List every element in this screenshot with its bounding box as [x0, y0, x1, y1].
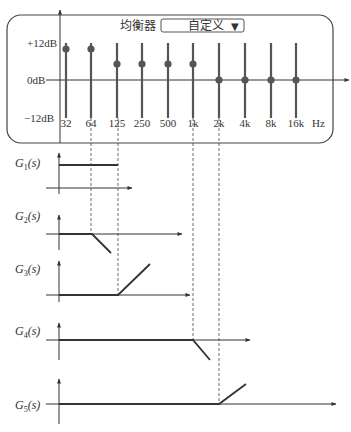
filter-label: G5(s) [15, 398, 40, 414]
band-label: 4k [240, 117, 252, 129]
filter-label: G4(s) [15, 324, 40, 340]
filter-label: G1(s) [15, 156, 40, 172]
preset-dropdown[interactable]: 自定义 ▼ [161, 18, 244, 33]
label-plus-12db: +12dB [27, 37, 57, 49]
equalizer-title: 均衡器 [120, 19, 156, 33]
slider-knob[interactable] [113, 60, 120, 67]
eq-band-slider[interactable]: 16k [288, 43, 305, 129]
filter-label: G3(s) [15, 262, 40, 278]
slider-knob[interactable] [189, 60, 196, 67]
filter-responses: G1(s)G2(s)G3(s)G4(s)G5(s) [15, 153, 336, 424]
eq-band-slider[interactable]: 4k [240, 43, 252, 129]
filter-g5: G5(s) [15, 379, 336, 424]
slider-knob[interactable] [164, 60, 171, 67]
eq-band-slider[interactable]: 125 [109, 43, 126, 129]
filter-g3: G3(s) [15, 261, 190, 302]
slider-knob[interactable] [87, 45, 94, 52]
eq-band-slider[interactable]: 250 [134, 43, 151, 129]
band-label: 32 [61, 117, 72, 129]
filter-label: G2(s) [15, 209, 40, 225]
filter-response-curve [59, 264, 150, 295]
label-0db: 0dB [27, 74, 45, 86]
dashed-guides [91, 118, 219, 404]
band-label: 250 [134, 117, 151, 129]
eq-band-slider[interactable]: 32 [61, 43, 72, 129]
slider-knob[interactable] [241, 76, 248, 83]
filter-response-curve [59, 384, 246, 404]
filter-response-curve [59, 234, 111, 253]
eq-band-slider[interactable]: 2k [214, 43, 226, 129]
eq-band-slider[interactable]: 64 [86, 43, 98, 129]
slider-knob[interactable] [292, 76, 299, 83]
label-minus-12db: −12dB [24, 112, 54, 124]
eq-band-slider[interactable]: 1k [188, 43, 200, 129]
chevron-down-icon: ▼ [231, 21, 239, 32]
band-label: 500 [160, 117, 177, 129]
eq-band-slider[interactable]: 500 [160, 43, 177, 129]
slider-knob[interactable] [62, 45, 69, 52]
slider-knob[interactable] [138, 60, 145, 67]
slider-knob[interactable] [267, 76, 274, 83]
filter-response-curve [59, 340, 210, 360]
slider-knob[interactable] [215, 76, 222, 83]
eq-band-slider[interactable]: 8k [266, 43, 278, 129]
band-label: 16k [288, 117, 305, 129]
filter-g2: G2(s) [15, 209, 182, 253]
preset-value: 自定义 [188, 18, 224, 33]
band-label: 125 [109, 117, 126, 129]
filter-g1: G1(s) [15, 153, 132, 194]
band-label: 8k [266, 117, 278, 129]
equalizer-filter-diagram: 均衡器 自定义 ▼ +12dB 0dB −12dB 32641252505001… [0, 0, 351, 432]
filter-g4: G4(s) [15, 323, 250, 360]
unit-hz: Hz [312, 117, 325, 129]
eq-sliders: 32641252505001k2k4k8k16k [61, 43, 305, 129]
